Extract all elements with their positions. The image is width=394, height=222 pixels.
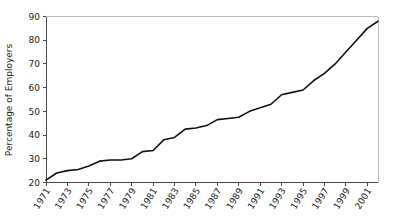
x-tick-label: 1985 — [182, 186, 203, 211]
x-tick-label: 1975 — [74, 186, 95, 211]
x-axis-ticks: 1971197319751977197919811983198519871989… — [32, 183, 374, 211]
chart-figure: 2030405060708090 19711973197519771979198… — [0, 0, 394, 222]
x-tick-label: 1987 — [203, 186, 224, 211]
y-tick-label: 20 — [29, 178, 41, 188]
y-tick-label: 40 — [29, 130, 41, 140]
y-axis-title: Percentage of Employers — [4, 43, 14, 156]
x-tick-label: 1999 — [331, 186, 352, 211]
x-tick-label: 1995 — [289, 186, 310, 211]
x-tick-label: 1989 — [224, 186, 245, 211]
x-tick-label: 2001 — [353, 186, 374, 211]
x-tick-label: 1979 — [117, 186, 138, 211]
y-tick-label: 80 — [29, 35, 41, 45]
y-tick-label: 70 — [29, 59, 41, 69]
x-tick-label: 1977 — [96, 186, 117, 211]
y-tick-label: 60 — [29, 83, 41, 93]
x-tick-label: 1991 — [246, 186, 267, 211]
x-tick-label: 1983 — [160, 186, 181, 211]
axis-lines — [46, 17, 378, 183]
y-axis-ticks: 2030405060708090 — [29, 12, 46, 188]
data-series — [46, 21, 378, 180]
x-tick-label: 1981 — [139, 186, 160, 211]
x-tick-label: 1997 — [310, 186, 331, 211]
plot-frame — [46, 17, 378, 183]
x-tick-label: 1973 — [53, 186, 74, 211]
x-tick-label: 1993 — [267, 186, 288, 211]
y-tick-label: 90 — [29, 12, 41, 22]
line-chart: 2030405060708090 19711973197519771979198… — [0, 0, 394, 222]
y-tick-label: 30 — [29, 154, 41, 164]
x-tick-label: 1971 — [32, 186, 53, 211]
series-line — [46, 21, 378, 180]
y-tick-label: 50 — [29, 107, 41, 117]
